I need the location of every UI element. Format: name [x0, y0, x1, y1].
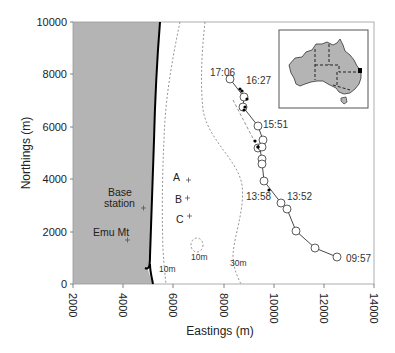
contour-10m-label-a: 10m — [159, 264, 176, 274]
time-label-1551: 15:51 — [263, 119, 288, 130]
land-area — [73, 22, 160, 284]
x-tick-12000: 12000 — [318, 293, 330, 324]
x-axis — [73, 284, 374, 288]
chart-figure: 10000 8000 6000 4000 2000 0 Northings (m… — [0, 0, 395, 353]
x-tick-10000: 10000 — [268, 293, 280, 324]
y-tick-8000: 8000 — [43, 68, 67, 80]
y-tick-labels: 10000 8000 6000 4000 2000 0 — [36, 16, 67, 290]
x-tick-labels: 2000 4000 6000 8000 10000 12000 14000 — [67, 293, 380, 324]
y-tick-4000: 4000 — [43, 173, 67, 185]
time-label-1358: 13:58 — [246, 191, 271, 202]
x-tick-4000: 4000 — [117, 293, 129, 317]
x-tick-8000: 8000 — [218, 293, 230, 317]
station-c-label: C — [176, 213, 184, 225]
location-marker — [358, 68, 362, 73]
time-label-1627: 16:27 — [246, 75, 271, 86]
time-label-0957: 09:57 — [346, 253, 371, 264]
contour-30m — [202, 22, 243, 284]
contour-30m-label: 30m — [230, 258, 247, 268]
x-tick-2000: 2000 — [67, 293, 79, 317]
y-tick-0: 0 — [61, 278, 67, 290]
station-b-label: B — [175, 193, 182, 205]
inset-map-australia — [279, 30, 368, 108]
x-tick-6000: 6000 — [167, 293, 179, 317]
x-tick-14000: 14000 — [368, 293, 380, 324]
y-tick-2000: 2000 — [43, 226, 67, 238]
station-a-label: A — [173, 171, 180, 183]
y-axis — [70, 22, 73, 284]
time-label-1352: 13:52 — [287, 191, 312, 202]
y-tick-10000: 10000 — [36, 16, 67, 28]
y-axis-label: Northings (m) — [19, 117, 33, 190]
contour-10m-closed — [191, 238, 203, 252]
contour-10m-label-b: 10m — [191, 252, 208, 262]
x-axis-label: Eastings (m) — [186, 324, 253, 338]
contour-10m — [162, 22, 180, 284]
y-tick-6000: 6000 — [43, 121, 67, 133]
time-label-1706: 17:06 — [210, 67, 235, 78]
base-station-label-2: station — [104, 197, 135, 209]
emu-mt-label: Emu Mt — [93, 226, 129, 238]
